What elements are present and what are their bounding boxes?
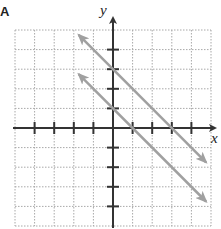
plotted-line (79, 35, 206, 162)
x-axis-label: x (211, 130, 218, 147)
coordinate-plane (0, 0, 221, 229)
plotted-line (79, 74, 206, 201)
y-axis-label: y (100, 2, 107, 19)
plotted-lines (79, 35, 206, 202)
